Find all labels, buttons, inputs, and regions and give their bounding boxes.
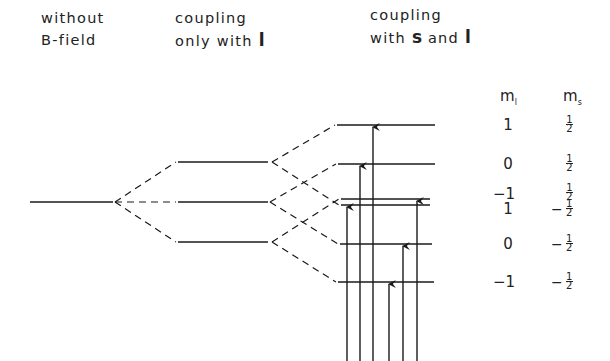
energy-level-diagram bbox=[0, 0, 610, 361]
connector-lines bbox=[115, 125, 339, 282]
